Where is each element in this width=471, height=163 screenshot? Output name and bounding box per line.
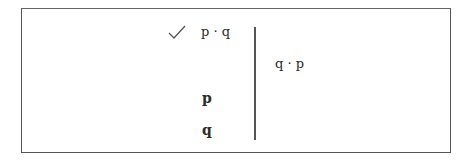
right-column-formula: q · p [275,57,304,71]
check-icon [168,25,186,39]
premise-formula: p · q [201,25,230,39]
diagram-frame [21,8,451,153]
column-divider [254,27,256,140]
derived-formula-q: q [202,123,212,137]
derived-formula-p: p [202,91,212,105]
